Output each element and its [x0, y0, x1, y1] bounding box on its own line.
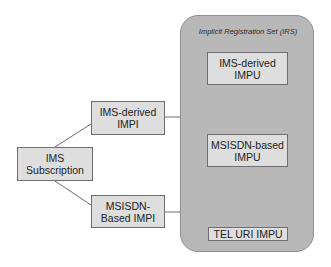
- msisdn-based-impi-label: MSISDN- Based IMPI: [101, 200, 155, 224]
- tel-uri-impu-label: TEL URI IMPU: [213, 228, 282, 240]
- ims-subscription-label: IMS Subscription: [26, 152, 84, 176]
- msisdn-based-impi-node: MSISDN- Based IMPI: [91, 195, 165, 228]
- ims-derived-impu-node: IMS-derived IMPU: [207, 52, 288, 85]
- msisdn-based-impu-label: MSISDN-based IMPU: [211, 139, 284, 163]
- ims-derived-impi-label: IMS-derived IMPI: [100, 106, 157, 130]
- edge-subscription-to-ims-impi: [55, 124, 91, 147]
- irs-title: Implicit Registration Set (IRS): [181, 27, 315, 36]
- ims-derived-impu-label: IMS-derived IMPU: [219, 57, 276, 81]
- msisdn-based-impu-node: MSISDN-based IMPU: [207, 134, 288, 167]
- ims-subscription-node: IMS Subscription: [17, 147, 93, 181]
- edge-subscription-to-msisdn-impi: [55, 181, 91, 205]
- tel-uri-impu-node: TEL URI IMPU: [208, 227, 288, 241]
- ims-derived-impi-node: IMS-derived IMPI: [91, 101, 165, 135]
